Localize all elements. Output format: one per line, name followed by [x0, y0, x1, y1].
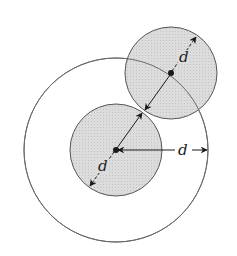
inner-center-dot: [113, 147, 119, 153]
inner-radius-label: d: [98, 157, 108, 175]
neighbor-center-dot: [168, 70, 174, 76]
neighbor-radius-label: d: [179, 48, 189, 66]
circle-diagram: d d d: [0, 0, 237, 256]
outer-gap-label: d: [178, 141, 188, 159]
